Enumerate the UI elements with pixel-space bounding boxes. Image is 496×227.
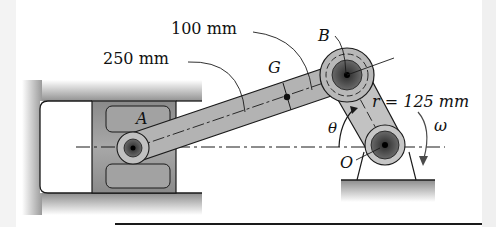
crank-radius-text: r = 125 mm	[372, 92, 469, 111]
omega-arc	[418, 112, 427, 158]
center-of-mass-G	[284, 94, 290, 100]
point-label-A: A	[136, 111, 148, 127]
dimension-label-250mm: 250 mm	[103, 51, 169, 67]
pin-O	[365, 125, 405, 165]
dimension-label-100mm: 100 mm	[171, 21, 237, 37]
angle-label-theta: θ	[328, 121, 337, 136]
point-label-O: O	[340, 155, 353, 171]
angular-velocity-label-omega: ω	[434, 118, 447, 134]
crank-radius-label: r = 125 mm	[372, 94, 469, 110]
point-label-B: B	[318, 28, 330, 44]
mechanism-diagram	[0, 0, 496, 227]
pin-A	[117, 132, 149, 164]
omega-arrowhead	[419, 156, 428, 166]
point-label-G: G	[268, 60, 281, 76]
